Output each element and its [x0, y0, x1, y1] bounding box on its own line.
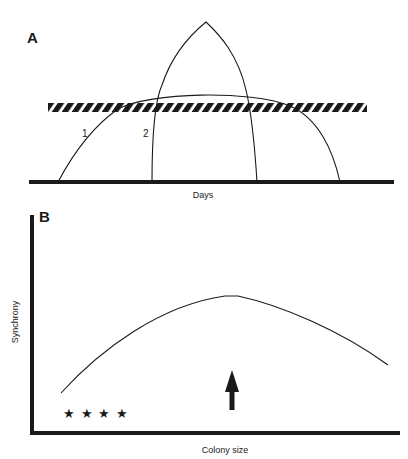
- panel-b: B ★ ★ ★ ★ Colony size Synchrony: [10, 208, 400, 455]
- panel-a-label: A: [27, 29, 38, 46]
- stars: ★ ★ ★ ★: [63, 406, 128, 421]
- panel-a: A 1 2 Days: [27, 22, 394, 200]
- synchrony-curve: [61, 296, 388, 393]
- curve-2: [152, 22, 257, 182]
- panel-a-baseline: [29, 180, 394, 184]
- panel-a-xlabel: Days: [193, 190, 214, 200]
- panel-b-xlabel: Colony size: [202, 445, 249, 455]
- panel-b-x-axis: [32, 431, 400, 435]
- threshold-hatched-bar: [48, 103, 367, 112]
- star-icon: ★: [63, 406, 75, 421]
- panel-b-ylabel: Synchrony: [10, 300, 20, 343]
- panel-b-y-axis: [30, 215, 34, 435]
- panel-b-label: B: [39, 208, 50, 225]
- figure: A 1 2 Days B ★ ★ ★ ★: [0, 0, 408, 459]
- star-icon: ★: [98, 406, 110, 421]
- star-icon: ★: [81, 406, 93, 421]
- star-icon: ★: [116, 406, 128, 421]
- up-arrow-icon: [225, 370, 239, 410]
- curve-1-label: 1: [82, 128, 88, 139]
- curve-2-label: 2: [143, 128, 149, 139]
